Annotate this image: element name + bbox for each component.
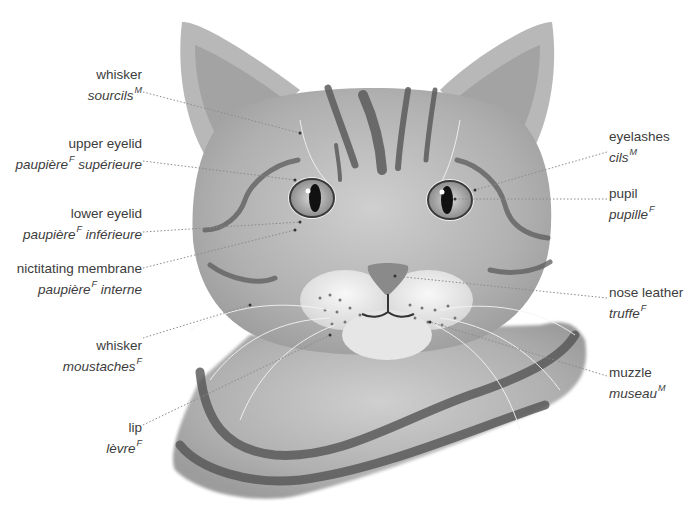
label-french: pupilleF (609, 202, 655, 223)
label-english: upper eyelid (15, 135, 142, 152)
label-lower-eyelid: lower eyelidpaupièreF inférieure (23, 205, 142, 243)
label-french: paupièreF supérieure (15, 152, 142, 173)
label-pupil: pupilpupilleF (609, 185, 655, 223)
label-whisker-eyebrow: whiskersourcilsM (88, 66, 142, 104)
cat-eye-left (288, 177, 336, 219)
cat-anatomy-diagram: whiskersourcilsMupper eyelidpaupièreF su… (0, 0, 692, 522)
gender-marker: M (658, 383, 666, 393)
leader-dot-upper-eyelid (294, 179, 297, 182)
label-eyelashes: eyelashescilsM (609, 128, 670, 166)
gender-marker: F (641, 303, 647, 313)
leader-dot-eyelashes (474, 189, 477, 192)
label-english: muzzle (609, 364, 666, 381)
leader-dot-lip (329, 334, 332, 337)
label-whisker: whiskermoustachesF (63, 337, 142, 375)
label-english: nose leather (609, 284, 683, 301)
label-french: lèvreF (106, 436, 142, 457)
label-french: truffeF (609, 301, 683, 322)
gender-marker: F (137, 438, 143, 448)
gender-marker: F (76, 224, 82, 234)
leader-dot-whisker (249, 304, 252, 307)
leader-dot-nose-leather (394, 275, 397, 278)
leader-dot-whisker-eyebrow (299, 132, 302, 135)
label-english: lower eyelid (23, 205, 142, 222)
label-french: moustachesF (63, 354, 142, 375)
label-upper-eyelid: upper eyelidpaupièreF supérieure (15, 135, 142, 173)
label-english: nictitating membrane (17, 260, 142, 277)
label-french: paupièreF inférieure (23, 222, 142, 243)
leader-dot-muzzle (429, 321, 432, 324)
gender-marker: F (91, 279, 97, 289)
label-english: lip (106, 419, 142, 436)
leader-dot-nictitating-membrane (294, 229, 297, 232)
label-english: pupil (609, 185, 655, 202)
label-french: paupièreF interne (17, 277, 142, 298)
label-english: whisker (63, 337, 142, 354)
gender-marker: F (649, 204, 655, 214)
label-english: whisker (88, 66, 142, 83)
gender-marker: F (137, 356, 143, 366)
gender-marker: M (630, 147, 638, 157)
label-french: sourcilsM (88, 83, 142, 104)
label-lip: liplèvreF (106, 419, 142, 457)
gender-marker: F (69, 154, 75, 164)
cat-eye-right (426, 179, 474, 221)
gender-marker: M (135, 85, 143, 95)
label-english: eyelashes (609, 128, 670, 145)
label-french: museauM (609, 381, 666, 402)
leader-dot-pupil (454, 198, 457, 201)
label-muzzle: muzzlemuseauM (609, 364, 666, 402)
leader-dot-lower-eyelid (299, 221, 302, 224)
cat-chin (342, 310, 432, 360)
label-french: cilsM (609, 145, 670, 166)
label-nose-leather: nose leathertruffeF (609, 284, 683, 322)
label-nictitating-membrane: nictitating membranepaupièreF interne (17, 260, 142, 298)
